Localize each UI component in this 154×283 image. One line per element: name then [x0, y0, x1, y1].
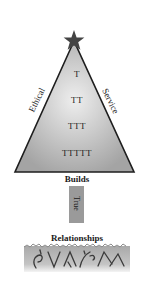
trunk-true-label: True [72, 193, 81, 214]
canopy-row-2: TT [0, 95, 154, 105]
canopy-row-1: T [0, 69, 154, 79]
roots-icon [24, 244, 130, 272]
builds-label: Builds [0, 174, 154, 184]
relationships-label: Relationships [0, 233, 154, 243]
canopy-row-4: TTTTT [0, 148, 154, 158]
canopy-row-3: TTT [0, 121, 154, 131]
